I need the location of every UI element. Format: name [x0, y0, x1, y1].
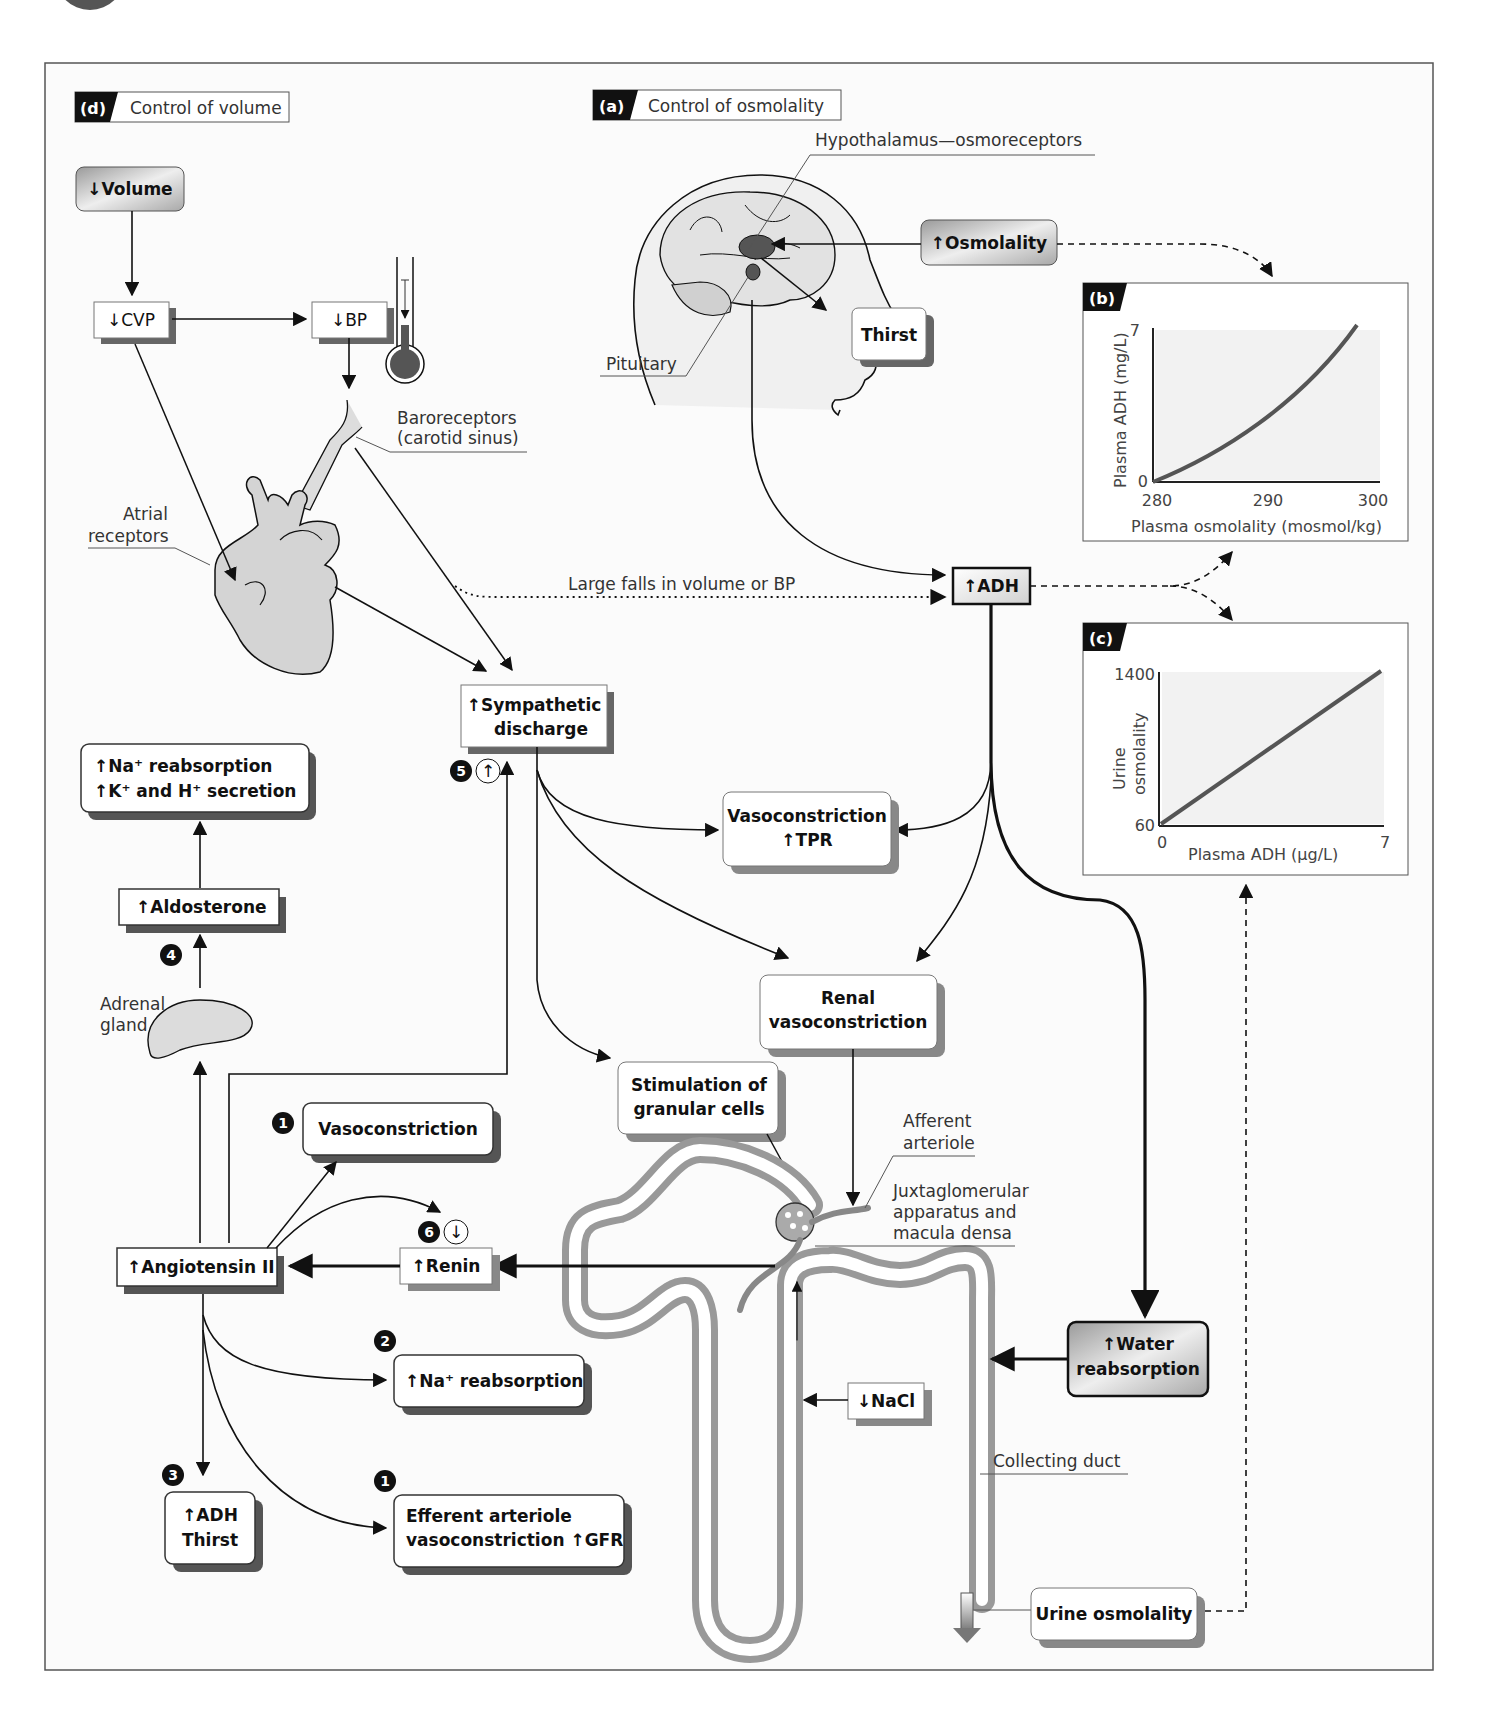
node-vasoconstriction-tpr: Vasoconstriction ↑TPR	[723, 792, 899, 874]
svg-text:↑Na⁺ reabsorption: ↑Na⁺ reabsorption	[405, 1371, 583, 1391]
svg-text:Thirst: Thirst	[861, 325, 917, 345]
svg-text:osmolality: osmolality	[1130, 713, 1149, 795]
svg-text:6: 6	[424, 1224, 434, 1240]
svg-text:Urine: Urine	[1110, 747, 1129, 790]
node-osmolality: ↑Osmolality	[921, 220, 1057, 265]
node-na-reabsorption: ↑Na⁺ reabsorption	[394, 1355, 592, 1415]
svg-text:0: 0	[1157, 833, 1167, 852]
node-renin: ↑Renin	[400, 1248, 500, 1291]
svg-text:7: 7	[1130, 321, 1140, 340]
svg-text:↑Renin: ↑Renin	[412, 1256, 481, 1276]
hypothalamus-label: Hypothalamus—osmoreceptors	[815, 130, 1082, 150]
svg-text:Vasoconstriction: Vasoconstriction	[727, 806, 887, 826]
adrenal-label: Adrenal	[100, 994, 165, 1014]
svg-text:↑TPR: ↑TPR	[781, 830, 832, 850]
svg-text:3: 3	[168, 1467, 178, 1483]
svg-text:↓NaCl: ↓NaCl	[857, 1391, 915, 1411]
svg-text:reabsorption: reabsorption	[1076, 1359, 1200, 1379]
hypothalamus-icon	[739, 235, 775, 259]
arteriole-label: arteriole	[903, 1133, 975, 1153]
jga-label: Juxtaglomerular	[892, 1181, 1029, 1201]
svg-text:5: 5	[456, 763, 466, 779]
large-falls-label: Large falls in volume or BP	[568, 574, 795, 594]
svg-text:↑Water: ↑Water	[1102, 1334, 1175, 1354]
macula-densa-label: macula densa	[893, 1223, 1012, 1243]
svg-text:1: 1	[278, 1115, 288, 1131]
node-adh: ↑ADH	[953, 568, 1030, 604]
svg-text:7: 7	[1380, 833, 1390, 852]
svg-text:↓BP: ↓BP	[331, 310, 367, 330]
marker-1a: 1	[272, 1112, 294, 1134]
apparatus-label: apparatus and	[893, 1202, 1017, 1222]
svg-text:Vasoconstriction: Vasoconstriction	[318, 1119, 478, 1139]
node-granular-cells: Stimulation of granular cells	[618, 1062, 786, 1142]
svg-text:Plasma ADH (mg/L): Plasma ADH (mg/L)	[1111, 332, 1130, 488]
svg-text:300: 300	[1358, 491, 1389, 510]
svg-text:0: 0	[1138, 472, 1148, 491]
svg-text:(c): (c)	[1089, 629, 1113, 648]
svg-text:↑Osmolality: ↑Osmolality	[931, 233, 1047, 253]
collecting-duct-label: Collecting duct	[993, 1451, 1121, 1471]
svg-text:Urine osmolality: Urine osmolality	[1036, 1604, 1193, 1624]
svg-text:↓CVP: ↓CVP	[107, 310, 155, 330]
marker-1b: 1	[374, 1470, 396, 1492]
svg-text:290: 290	[1253, 491, 1284, 510]
svg-text:vasoconstriction: vasoconstriction	[769, 1012, 927, 1032]
svg-text:↑K⁺ and H⁺ secretion: ↑K⁺ and H⁺ secretion	[94, 781, 296, 801]
svg-text:4: 4	[166, 947, 176, 963]
node-renal-vasoconstriction: Renal vasoconstriction	[760, 975, 945, 1057]
node-urine-osmolality: Urine osmolality	[1031, 1588, 1205, 1648]
svg-text:↑ADH: ↑ADH	[182, 1505, 238, 1525]
afferent-label: Afferent	[903, 1111, 972, 1131]
carotid-sinus-label: (carotid sinus)	[397, 428, 519, 448]
svg-text:Stimulation of: Stimulation of	[631, 1075, 768, 1095]
marker-2: 2	[374, 1330, 396, 1352]
svg-text:↓Volume: ↓Volume	[87, 179, 172, 199]
diagram-stage: (d) Control of volume (a) Control of osm…	[0, 0, 1487, 1720]
svg-text:2: 2	[380, 1333, 390, 1349]
svg-text:↑Angiotensin II: ↑Angiotensin II	[127, 1257, 275, 1277]
marker-4: 4	[160, 944, 182, 966]
svg-text:(b): (b)	[1089, 289, 1115, 308]
panel-a-title: Control of osmolality	[648, 96, 824, 116]
svg-text:↑Na⁺ reabsorption: ↑Na⁺ reabsorption	[94, 756, 272, 776]
svg-text:↑Aldosterone: ↑Aldosterone	[136, 897, 267, 917]
svg-text:Plasma ADH (μg/L): Plasma ADH (μg/L)	[1188, 845, 1338, 864]
svg-text:granular cells: granular cells	[633, 1099, 764, 1119]
svg-text:↑Sympathetic: ↑Sympathetic	[467, 695, 602, 715]
node-bp: ↓BP	[312, 302, 394, 344]
node-thirst-head: Thirst	[852, 308, 934, 367]
panel-d-title: Control of volume	[130, 98, 282, 118]
node-aldosterone: ↑Aldosterone	[119, 889, 286, 933]
svg-text:Thirst: Thirst	[182, 1530, 238, 1550]
svg-text:↑: ↑	[481, 761, 495, 781]
renal-control-diagram: (d) Control of volume (a) Control of osm…	[0, 0, 1487, 1720]
node-efferent: Efferent arteriole vasoconstriction ↑GFR	[394, 1495, 632, 1575]
panel-a-tag: (a)	[599, 97, 624, 116]
node-adh-thirst: ↑ADH Thirst	[165, 1492, 263, 1572]
chart-c: (c) 1400 60 0 7 Plasma ADH (μg/L) Urine …	[1083, 623, 1408, 875]
svg-text:discharge: discharge	[494, 719, 588, 739]
svg-text:vasoconstriction ↑GFR: vasoconstriction ↑GFR	[406, 1530, 623, 1550]
node-nacl: ↓NaCl	[848, 1383, 932, 1426]
panel-d-tag: (d)	[80, 99, 106, 118]
node-cvp: ↓CVP	[94, 302, 176, 344]
atrial-label: Atrial	[123, 504, 168, 524]
baroreceptors-label: Baroreceptors	[397, 408, 517, 428]
node-vasoconstriction: Vasoconstriction	[303, 1103, 501, 1163]
svg-text:1400: 1400	[1114, 665, 1155, 684]
svg-text:Plasma osmolality (mosmol/kg): Plasma osmolality (mosmol/kg)	[1131, 517, 1382, 536]
node-angiotensin: ↑Angiotensin II	[117, 1248, 284, 1294]
svg-text:1: 1	[380, 1473, 390, 1489]
node-na-k-secretion: ↑Na⁺ reabsorption ↑K⁺ and H⁺ secretion	[81, 744, 316, 820]
svg-text:↑ADH: ↑ADH	[963, 576, 1019, 596]
node-sympathetic: ↑Sympathetic discharge	[461, 685, 614, 754]
node-volume: ↓Volume	[76, 167, 184, 211]
panel-d-header: (d) Control of volume	[75, 92, 289, 122]
svg-text:↓: ↓	[449, 1222, 463, 1242]
svg-text:Renal: Renal	[821, 988, 875, 1008]
panel-a-header: (a) Control of osmolality	[593, 90, 841, 120]
receptors-label: receptors	[88, 526, 169, 546]
pituitary-label: Pituitary	[606, 354, 677, 374]
gland-label: gland	[100, 1015, 148, 1035]
